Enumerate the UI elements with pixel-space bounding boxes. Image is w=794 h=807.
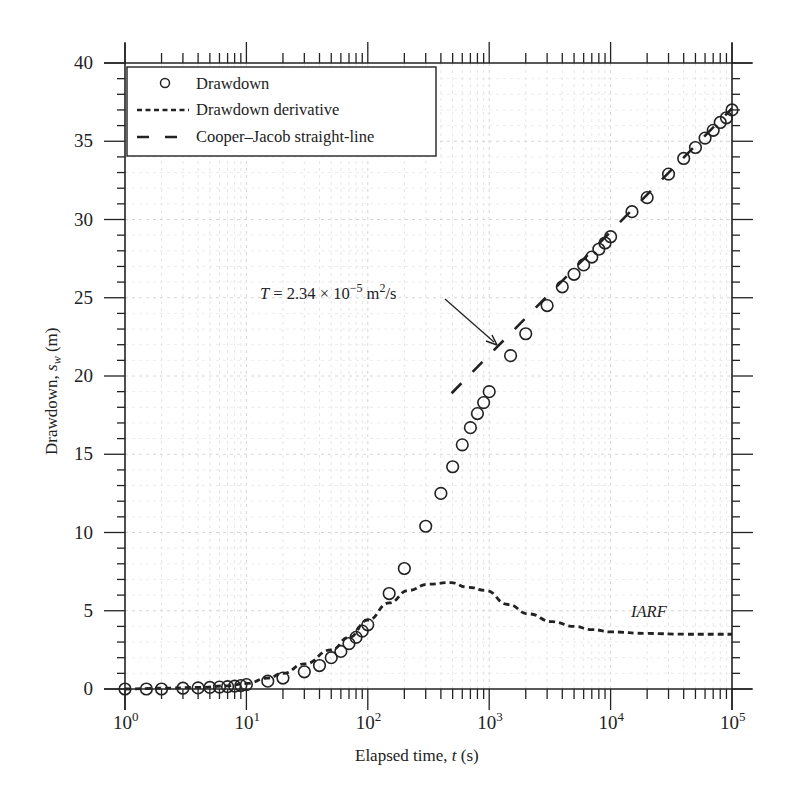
x-tick-labels: 100101102103104105: [113, 709, 746, 733]
y-tick-label: 0: [84, 678, 94, 699]
y-tick-label: 5: [84, 600, 94, 621]
drawdown-point: [505, 350, 517, 362]
x-tick-label: 103: [477, 709, 503, 733]
legend: Drawdown Drawdown derivative Cooper–Jaco…: [127, 67, 436, 156]
x-tick-label: 104: [599, 709, 625, 733]
y-tick-label: 35: [74, 130, 93, 151]
x-tick-label: 105: [720, 709, 746, 733]
x-tick-label: 101: [234, 709, 260, 733]
x-tick-label: 102: [356, 709, 382, 733]
legend-label-cooper-jacob: Cooper–Jacob straight-line: [196, 127, 374, 146]
iarf-label: IARF: [630, 602, 668, 621]
legend-label-drawdown: Drawdown: [196, 74, 269, 93]
legend-label-derivative: Drawdown derivative: [196, 100, 339, 119]
drawdown-point: [383, 588, 395, 600]
y-axis-title: Drawdown, sw (m): [42, 328, 64, 455]
y-tick-label: 20: [74, 365, 93, 386]
y-tick-label: 40: [74, 52, 93, 73]
transmissivity-label: T = 2.34 × 10−5 m2/s: [260, 281, 396, 303]
y-tick-label: 10: [74, 522, 93, 543]
x-axis-title: Elapsed time, t (s): [355, 746, 479, 765]
y-tick-labels: 0510152025303540: [74, 52, 93, 699]
chart: 100101102103104105 0510152025303540 Draw…: [0, 0, 794, 807]
grid-lines: [125, 63, 732, 689]
y-tick-label: 25: [74, 287, 93, 308]
y-tick-label: 15: [74, 443, 93, 464]
y-tick-label: 30: [74, 209, 93, 230]
annotation-arrow-line: [445, 299, 494, 342]
x-tick-label: 100: [113, 709, 139, 733]
drawdown-point: [626, 206, 638, 218]
